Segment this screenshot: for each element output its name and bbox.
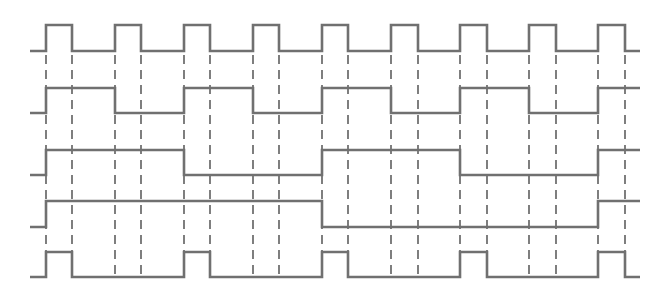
waveform-q0 — [30, 88, 640, 113]
waveform-output-pulse — [30, 252, 640, 277]
waveform-q1 — [30, 150, 640, 175]
signal-waveforms — [30, 25, 640, 277]
waveform-clock — [30, 25, 640, 51]
timing-diagram — [0, 0, 670, 296]
waveform-q2 — [30, 201, 640, 227]
